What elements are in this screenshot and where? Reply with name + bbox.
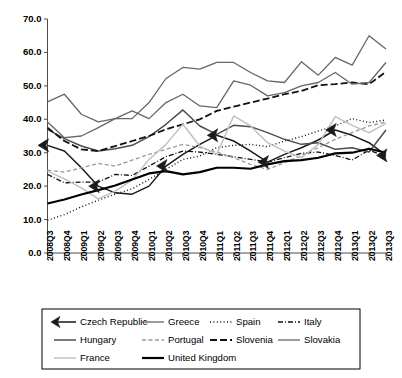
x-tick-label: 2012Q2 xyxy=(299,230,309,261)
legend-label: Italy xyxy=(304,316,322,327)
x-tick-label: 2009Q1 xyxy=(79,230,89,261)
x-tick-label: 2009Q3 xyxy=(113,230,123,261)
x-tick-label: 2010Q3 xyxy=(181,230,191,261)
x-tick-label: 2011Q1 xyxy=(215,231,225,261)
x-tick-label: 2011Q3 xyxy=(248,231,258,261)
x-axis: 2008Q32008Q42009Q12009Q22009Q32009Q42010… xyxy=(45,230,394,261)
x-tick-label: 2013Q2 xyxy=(367,230,377,261)
x-tick-label: 2008Q3 xyxy=(45,230,55,261)
x-tick-label: 2010Q2 xyxy=(164,230,174,261)
x-tick-label: 2012Q1 xyxy=(282,230,292,261)
series-line-united-kingdom xyxy=(48,149,387,204)
chart-legend: Czech RepublicGreeceSpainItalyHungaryPor… xyxy=(42,309,360,369)
y-tick-label: 50.0 xyxy=(23,80,42,91)
x-tick-label: 2008Q4 xyxy=(62,230,72,261)
y-tick-label: 20.0 xyxy=(23,180,42,191)
x-tick-label: 2009Q4 xyxy=(130,230,140,261)
legend-label: Slovenia xyxy=(236,334,273,345)
x-tick-label: 2009Q2 xyxy=(96,230,106,261)
y-tick-label: 30.0 xyxy=(23,147,42,158)
series-lines xyxy=(48,36,387,221)
legend-label: Hungary xyxy=(80,334,116,345)
y-tick-label: 40.0 xyxy=(23,113,42,124)
x-tick-label: 2013Q3 xyxy=(384,230,394,261)
y-tick-label: 70.0 xyxy=(23,13,42,24)
y-tick-label: 10.0 xyxy=(23,214,42,225)
legend-label: Slovakia xyxy=(304,334,341,345)
legend-label: Portugal xyxy=(168,334,204,345)
y-tick-label: 60.0 xyxy=(23,46,42,57)
legend-label: Greece xyxy=(168,316,199,327)
x-tick-label: 2011Q2 xyxy=(232,231,242,261)
legend-label: Spain xyxy=(236,316,261,327)
y-tick-label: 0.0 xyxy=(28,247,41,258)
legend-label: Czech Republic xyxy=(80,316,147,327)
x-tick-label: 2013Q1 xyxy=(350,230,360,261)
x-tick-label: 2010Q4 xyxy=(198,230,208,261)
y-axis: 0.010.020.030.040.050.060.070.0 xyxy=(23,13,48,258)
x-tick-label: 2012Q4 xyxy=(333,230,343,261)
x-tick-label: 2011Q4 xyxy=(265,231,275,261)
x-tick-label: 2012Q3 xyxy=(316,230,326,261)
chart-container: 0.010.020.030.040.050.060.070.0 2008Q320… xyxy=(0,0,402,378)
legend-label: United Kingdom xyxy=(168,352,236,363)
series-line-greece xyxy=(48,36,387,122)
line-chart: 0.010.020.030.040.050.060.070.0 2008Q320… xyxy=(0,0,402,378)
x-tick-label: 2010Q1 xyxy=(147,230,157,261)
legend-label: France xyxy=(80,352,110,363)
